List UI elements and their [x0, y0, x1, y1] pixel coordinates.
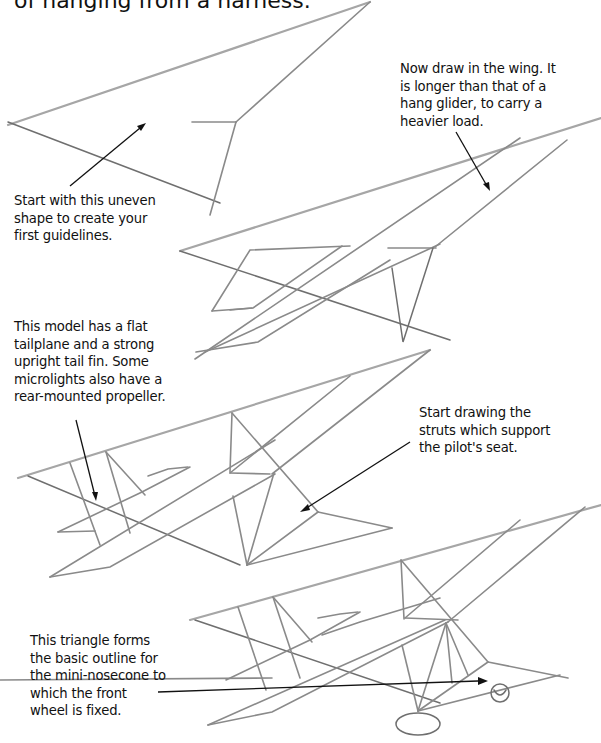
step-2-wing-sketch — [180, 118, 601, 359]
step-1-caption: Start with this uneven shape to create y… — [14, 192, 156, 245]
step-3-pointer-arrows — [76, 420, 410, 512]
step-4-caption: This triangle forms the basic outline fo… — [30, 632, 166, 720]
drawing-tutorial-page: of hanging from a harness. — [0, 0, 601, 743]
step-1-pointer-arrow — [70, 123, 146, 186]
step-1-guideline-shape — [8, 2, 370, 215]
step-3b-caption: Start drawing the struts which support t… — [419, 404, 550, 457]
step-3-caption: This model has a flat tailplane and a st… — [14, 318, 165, 406]
step-2-caption: Now draw in the wing. It is longer than … — [400, 60, 556, 130]
